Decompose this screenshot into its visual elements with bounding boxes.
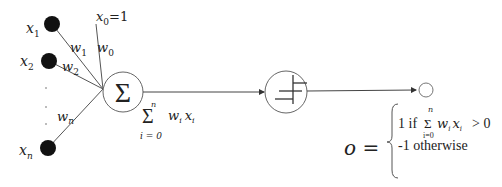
input-node-x1 — [44, 16, 60, 32]
activation-node — [265, 71, 307, 113]
case1-condition: > 0 — [472, 116, 490, 131]
input-node-x2 — [41, 53, 57, 69]
weight-label-wn: wn — [57, 109, 74, 126]
input-label-x1: x1 — [26, 20, 40, 39]
weight-label-w2: w2 — [62, 59, 79, 77]
case1-upper: n — [428, 105, 433, 114]
edge-activation-to-output — [307, 90, 416, 91]
case2-text: -1 otherwise — [398, 138, 468, 153]
case1-term: wixi — [437, 116, 462, 133]
perceptron-diagram: x1 x2 xn x0=1 w1 w2 wn w0 Σ n Σ i = 0 wi… — [0, 0, 502, 187]
ellipsis-dot — [45, 87, 47, 89]
output-label: o = — [344, 136, 379, 160]
ellipsis-dot — [45, 123, 47, 125]
output-node — [419, 83, 433, 97]
case1-prefix: 1 if — [398, 116, 417, 131]
edge-x0 — [96, 24, 103, 89]
sum-term: wixi — [168, 108, 195, 125]
sigma-icon: Σ — [115, 77, 131, 108]
input-label-xn: xn — [19, 142, 33, 161]
sum-sigma: Σ — [142, 105, 154, 127]
brace-icon — [387, 104, 398, 178]
input-label-x2: x2 — [20, 53, 34, 72]
input-node-xn — [40, 140, 56, 156]
bias-label: x0=1 — [96, 9, 128, 27]
sum-lower: i = 0 — [140, 131, 162, 141]
ellipsis-dot — [45, 106, 47, 108]
edge-x1 — [52, 24, 103, 89]
case1-sigma: Σ — [424, 116, 432, 131]
weight-label-w1: w1 — [70, 40, 87, 58]
